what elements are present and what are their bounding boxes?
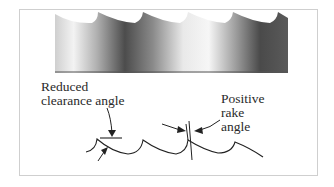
label-line: angle: [221, 120, 265, 134]
clearance-angle-label: Reduced clearance angle: [41, 80, 125, 108]
rake-arrow-right: [200, 120, 220, 130]
arrowhead-icon: [177, 126, 186, 133]
clearance-arrow-top: [107, 108, 112, 133]
rake-face-line: [186, 124, 188, 140]
rake-arrow-left: [162, 124, 180, 130]
rake-angle-label: Positive rake angle: [221, 92, 265, 134]
label-line: Positive: [221, 92, 265, 106]
saw-blade: [55, 12, 288, 73]
tooth-profile: [86, 139, 263, 157]
label-line: Reduced: [41, 80, 125, 94]
label-line: clearance angle: [41, 94, 125, 108]
arrowhead-icon: [108, 130, 116, 137]
label-line: rake: [221, 106, 265, 120]
clearance-arrow-bottom: [98, 152, 104, 161]
arrowhead-icon: [194, 127, 203, 134]
arrowhead-icon: [101, 147, 108, 155]
